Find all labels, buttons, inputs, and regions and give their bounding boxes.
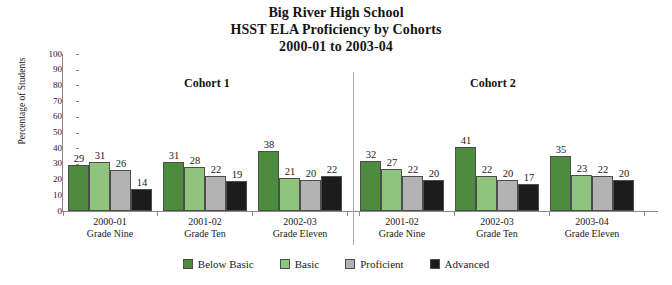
- bar-proficient[interactable]: [205, 176, 226, 211]
- bar-basic[interactable]: [89, 162, 110, 211]
- plot-area: 2931261431282219382120223227222041222017…: [63, 54, 657, 211]
- y-axis-tick-20: 20: [22, 175, 62, 184]
- x-axis-tickmark: [549, 212, 550, 216]
- bar-advanced[interactable]: [423, 180, 444, 211]
- y-axis-tick-0: 0: [22, 207, 62, 216]
- x-axis-label-year: 2002-03: [480, 216, 513, 227]
- x-axis-label-grade: Grade Eleven: [537, 228, 647, 240]
- bar-wrap: 19: [226, 54, 247, 211]
- y-axis-tickmark-0: [76, 211, 79, 212]
- legend-label: Advanced: [445, 258, 490, 270]
- x-axis-label-year: 2001-02: [188, 216, 221, 227]
- bar-wrap: 22: [321, 54, 342, 211]
- y-axis-tick-60: 60: [22, 112, 62, 121]
- bar-wrap: 20: [613, 54, 634, 211]
- x-axis-label-grade: Grade Nine: [347, 228, 457, 240]
- legend-label: Below Basic: [198, 258, 254, 270]
- x-axis-label-year: 2001-02: [385, 216, 418, 227]
- bar-below-basic[interactable]: [360, 161, 381, 211]
- bar-group: 38212022: [258, 54, 350, 211]
- x-axis-tickmark: [347, 212, 348, 216]
- x-axis-label-group: 2000-01Grade Nine: [55, 216, 165, 239]
- legend-swatch-icon: [280, 259, 290, 269]
- x-axis-label-group: 2002-03Grade Eleven: [245, 216, 355, 239]
- bar-value-label: 14: [125, 177, 159, 188]
- x-axis-label-group: 2002-03Grade Ten: [442, 216, 552, 239]
- bar-advanced[interactable]: [226, 181, 247, 211]
- y-axis-tick-30: 30: [22, 159, 62, 168]
- bar-wrap: 22: [592, 54, 613, 211]
- chart-title: Big River High School HSST ELA Proficien…: [0, 4, 672, 55]
- x-axis-tickmark: [644, 212, 645, 216]
- legend-item-proficient[interactable]: Proficient: [345, 258, 403, 270]
- bar-wrap: 17: [518, 54, 539, 211]
- bar-group: 32272220: [360, 54, 452, 211]
- y-axis-title: Percentage of Students: [17, 31, 27, 171]
- bar-proficient[interactable]: [300, 180, 321, 211]
- bar-wrap: 20: [300, 54, 321, 211]
- bar-wrap: 27: [381, 54, 402, 211]
- bar-wrap: 38: [258, 54, 279, 211]
- bar-group: 41222017: [455, 54, 547, 211]
- legend-label: Basic: [295, 258, 319, 270]
- bar-proficient[interactable]: [497, 180, 518, 211]
- y-axis-tick-70: 70: [22, 97, 62, 106]
- bar-basic[interactable]: [476, 176, 497, 211]
- x-axis-tickmark: [359, 212, 360, 216]
- x-axis-tickmark: [252, 212, 253, 216]
- x-axis-label-group: 2001-02Grade Nine: [347, 216, 457, 239]
- bar-below-basic[interactable]: [163, 162, 184, 211]
- x-axis-label-year: 2003-04: [575, 216, 608, 227]
- legend-swatch-icon: [430, 259, 440, 269]
- bar-below-basic[interactable]: [258, 151, 279, 211]
- x-axis-line: [62, 211, 658, 212]
- y-axis-tick-50: 50: [22, 128, 62, 137]
- legend-item-advanced[interactable]: Advanced: [430, 258, 490, 270]
- bar-basic[interactable]: [571, 175, 592, 211]
- bar-proficient[interactable]: [402, 176, 423, 211]
- bar-group: 35232220: [550, 54, 642, 211]
- bar-basic[interactable]: [279, 178, 300, 211]
- bar-group: 31282219: [163, 54, 255, 211]
- x-axis-label-grade: Grade Ten: [150, 228, 260, 240]
- x-axis-label-year: 2000-01: [93, 216, 126, 227]
- bar-below-basic[interactable]: [455, 147, 476, 211]
- x-axis-tickmark: [63, 212, 64, 216]
- chart-title-line-2: HSST ELA Proficiency by Cohorts: [0, 21, 672, 38]
- bar-wrap: 20: [423, 54, 444, 211]
- legend-item-basic[interactable]: Basic: [280, 258, 319, 270]
- x-axis-label-year: 2002-03: [283, 216, 316, 227]
- bar-wrap: 22: [476, 54, 497, 211]
- legend-item-below-basic[interactable]: Below Basic: [183, 258, 254, 270]
- bar-advanced[interactable]: [321, 176, 342, 211]
- bar-value-label: 20: [417, 168, 451, 179]
- legend-swatch-icon: [183, 259, 193, 269]
- bar-wrap: 41: [455, 54, 476, 211]
- y-axis-tick-90: 90: [22, 65, 62, 74]
- x-axis-label-grade: Grade Ten: [442, 228, 552, 240]
- bar-below-basic[interactable]: [68, 165, 89, 211]
- y-axis-tick-40: 40: [22, 144, 62, 153]
- bar-wrap: 31: [163, 54, 184, 211]
- bar-wrap: 20: [497, 54, 518, 211]
- bar-proficient[interactable]: [592, 176, 613, 211]
- bar-value-label: 17: [512, 172, 546, 183]
- x-axis-label-group: 2001-02Grade Ten: [150, 216, 260, 239]
- bar-wrap: 22: [205, 54, 226, 211]
- bar-wrap: 21: [279, 54, 300, 211]
- chart-title-line-3: 2000-01 to 2003-04: [0, 38, 672, 55]
- bar-wrap: 29: [68, 54, 89, 211]
- bar-wrap: 32: [360, 54, 381, 211]
- x-axis-tickmark: [454, 212, 455, 216]
- bar-wrap: 31: [89, 54, 110, 211]
- legend-swatch-icon: [345, 259, 355, 269]
- bar-wrap: 23: [571, 54, 592, 211]
- y-axis-tick-10: 10: [22, 191, 62, 200]
- bar-value-label: 22: [315, 164, 349, 175]
- bar-value-label: 20: [607, 168, 641, 179]
- y-axis-tick-80: 80: [22, 81, 62, 90]
- bar-advanced[interactable]: [613, 180, 634, 211]
- bar-group: 29312614: [68, 54, 160, 211]
- bar-advanced[interactable]: [131, 189, 152, 211]
- bar-advanced[interactable]: [518, 184, 539, 211]
